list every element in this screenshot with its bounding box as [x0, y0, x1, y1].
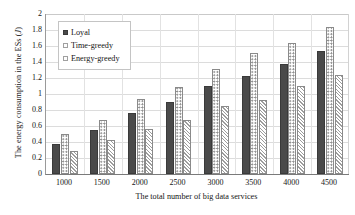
x-axis-tick-label: 4500 [321, 178, 337, 188]
legend-swatch-icon [63, 56, 68, 61]
legend-label: Time-greedy [71, 41, 113, 50]
bar [166, 102, 174, 174]
legend-swatch-icon [63, 43, 68, 48]
bar [175, 87, 183, 174]
x-axis-title: The total number of big data services [45, 192, 348, 201]
bar [280, 64, 288, 174]
bar [52, 144, 60, 174]
x-axis-tick-label: 3000 [207, 178, 223, 188]
y-axis-tick-label: 0 [18, 170, 42, 178]
bar-group [235, 14, 273, 174]
y-axis-tick-labels: 00.20.40.60.811.21.41.61.82 [18, 14, 42, 174]
bar [61, 134, 69, 174]
legend-label: Energy-greedy [71, 54, 120, 63]
x-axis-tick-label: 4000 [283, 178, 299, 188]
bar [128, 113, 136, 174]
legend-item: Loyal [63, 26, 127, 39]
x-axis-tick-label: 2000 [132, 178, 148, 188]
bar [242, 76, 250, 174]
bar [204, 86, 212, 174]
x-axis-tick-label: 3500 [245, 178, 261, 188]
bar-chart: The energy consumption in the ESs (J) 00… [0, 0, 355, 215]
bar [221, 106, 229, 174]
x-axis-tick-labels: 10001500200025003000350040004500 [45, 178, 348, 192]
x-axis-tick-label: 1000 [56, 178, 72, 188]
bar [250, 53, 258, 174]
bar [326, 27, 334, 174]
bar-group [160, 14, 198, 174]
bar [99, 120, 107, 174]
x-axis-tick-label: 1500 [94, 178, 110, 188]
y-axis-tick-label: 1.2 [18, 74, 42, 82]
y-axis-tick-label: 0.8 [18, 106, 42, 114]
bar [259, 100, 267, 174]
y-axis-tick-label: 0.6 [18, 122, 42, 130]
y-axis-tick-label: 2 [18, 10, 42, 18]
bar-group [311, 14, 349, 174]
bar [137, 99, 145, 174]
y-axis-tick-label: 1.6 [18, 42, 42, 50]
chart-legend: LoyalTime-greedyEnergy-greedy [58, 21, 131, 70]
legend-item: Time-greedy [63, 39, 127, 52]
x-axis-tick-label: 2500 [170, 178, 186, 188]
y-axis-tick-label: 0.4 [18, 138, 42, 146]
bar [183, 120, 191, 174]
bar-group [273, 14, 311, 174]
y-axis-tick-label: 1.8 [18, 26, 42, 34]
bar [297, 86, 305, 174]
legend-label: Loyal [71, 28, 90, 37]
legend-swatch-icon [63, 30, 68, 35]
bar [212, 69, 220, 174]
y-axis-tick-label: 0.2 [18, 154, 42, 162]
bar [317, 51, 325, 174]
bar [90, 130, 98, 174]
bar [288, 43, 296, 174]
bar [107, 140, 115, 174]
bar-group [198, 14, 236, 174]
bar [145, 129, 153, 174]
y-axis-tick-label: 1.4 [18, 58, 42, 66]
bar [335, 75, 343, 174]
y-axis-tick-label: 1 [18, 90, 42, 98]
legend-item: Energy-greedy [63, 52, 127, 65]
bar [70, 151, 78, 174]
